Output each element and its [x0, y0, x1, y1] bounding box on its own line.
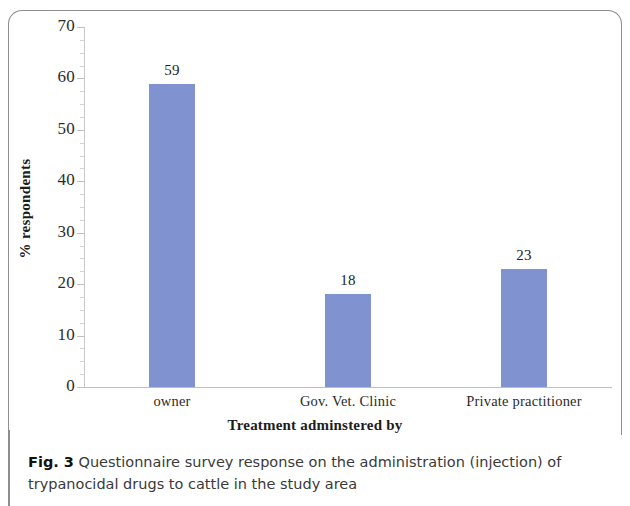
caption-left-rule	[8, 430, 10, 506]
y-axis-title-text: % respondents	[17, 129, 34, 289]
y-tick-label-text: 60	[58, 67, 75, 87]
y-tick-minor	[80, 156, 85, 157]
y-tick-label-text: 20	[58, 273, 75, 293]
y-tick-label-text: 0	[66, 376, 75, 396]
y-tick-minor	[80, 348, 85, 349]
y-tick-minor	[80, 143, 85, 144]
y-tick-major	[77, 284, 85, 285]
figure-caption-text: Questionnaire survey response on the adm…	[28, 454, 561, 492]
y-tick-label-text: 70	[58, 16, 75, 36]
bar-chart-plot-area: 010203040506070 591823 ownerGov. Vet. Cl…	[0, 0, 630, 440]
y-tick-label-text: 40	[58, 170, 75, 190]
y-tick-minor	[80, 271, 85, 272]
y-tick-label-text: 30	[58, 222, 75, 242]
y-tick-minor	[80, 66, 85, 67]
y-tick-minor	[80, 361, 85, 362]
bar	[501, 269, 547, 387]
y-tick-minor	[80, 104, 85, 105]
y-tick-minor	[80, 117, 85, 118]
x-category-label: Gov. Vet. Clinic	[258, 393, 438, 410]
y-tick-label-text: 50	[58, 119, 75, 139]
y-tick-minor	[80, 220, 85, 221]
y-tick-minor	[80, 53, 85, 54]
y-tick-label-text: 10	[58, 325, 75, 345]
y-tick-minor	[80, 258, 85, 259]
x-axis-title: Treatment adminstered by	[0, 417, 630, 434]
y-tick-minor	[80, 374, 85, 375]
bar-value-label: 18	[308, 272, 388, 289]
y-tick-major	[77, 387, 85, 388]
y-tick-minor	[80, 323, 85, 324]
y-tick-minor	[80, 40, 85, 41]
y-tick-minor	[80, 91, 85, 92]
bar-value-label: 23	[484, 247, 564, 264]
bar-value-label: 59	[132, 62, 212, 79]
x-category-label: owner	[82, 393, 262, 410]
figure-caption: Fig. 3 Questionnaire survey response on …	[28, 452, 608, 496]
y-tick-minor	[80, 194, 85, 195]
y-tick-major	[77, 181, 85, 182]
y-tick-major	[77, 336, 85, 337]
y-tick-major	[77, 130, 85, 131]
y-tick-minor	[80, 168, 85, 169]
y-tick-minor	[80, 207, 85, 208]
bar	[149, 84, 195, 387]
figure-caption-label: Fig. 3	[28, 454, 74, 470]
figure-container: 010203040506070 591823 ownerGov. Vet. Cl…	[0, 0, 630, 506]
y-tick-minor	[80, 246, 85, 247]
y-tick-major	[77, 78, 85, 79]
y-axis-title: % respondents	[10, 130, 40, 290]
y-tick-minor	[80, 310, 85, 311]
bar	[325, 294, 371, 387]
y-tick-major	[77, 233, 85, 234]
y-tick-minor	[80, 297, 85, 298]
x-category-label: Private practitioner	[434, 393, 614, 410]
x-axis-line	[84, 387, 612, 388]
y-tick-major	[77, 27, 85, 28]
